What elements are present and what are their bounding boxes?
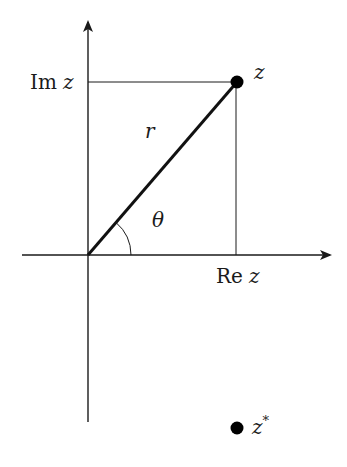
point-z-conjugate-label: z* — [251, 413, 270, 439]
complex-plane-diagram: Imz z r θ Rez z* — [0, 0, 347, 467]
point-z-conjugate — [231, 422, 244, 435]
angle-label: θ — [152, 208, 164, 232]
angle-arc — [116, 223, 131, 256]
point-z-label: z — [253, 60, 265, 84]
point-z — [231, 76, 244, 89]
re-z-label: Rez — [216, 264, 260, 288]
modulus-label: r — [145, 119, 156, 143]
im-z-label: Imz — [30, 70, 74, 94]
